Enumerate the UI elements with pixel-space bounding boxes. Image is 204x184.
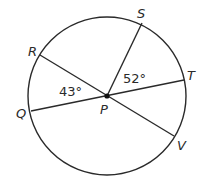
center-point [104, 93, 109, 98]
label-r: R [28, 44, 37, 59]
label-s: S [137, 6, 145, 21]
circle-diagram: S R T Q V P 43° 52° [0, 0, 204, 184]
angle-label-spt: 52° [123, 71, 146, 86]
label-v: V [177, 138, 187, 153]
label-p: P [100, 102, 108, 117]
label-t: T [187, 68, 196, 83]
angle-label-rpq: 43° [59, 84, 82, 99]
label-q: Q [16, 106, 26, 121]
